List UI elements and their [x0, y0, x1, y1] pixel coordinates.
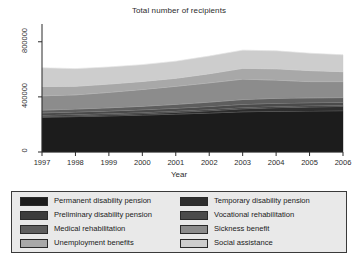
- legend-entry: Permanent disability pension: [20, 194, 180, 208]
- x-tick-label-6: 2003: [228, 158, 258, 167]
- legend-swatch: [180, 239, 208, 248]
- area-band-0: [42, 111, 343, 152]
- x-tick-label-1: 1998: [60, 158, 90, 167]
- legend-label: Vocational rehabilitation: [214, 211, 294, 219]
- legend-label: Social assistance: [214, 239, 273, 247]
- legend-swatch: [20, 211, 48, 220]
- x-tick-label-5: 2002: [194, 158, 224, 167]
- legend-label: Preliminary disability pension: [54, 211, 152, 219]
- x-tick-label-7: 2004: [261, 158, 291, 167]
- legend-label: Permanent disability pension: [54, 197, 151, 205]
- legend-swatch: [20, 225, 48, 234]
- legend-label: Temporary disability pension: [214, 197, 310, 205]
- legend-entry: Temporary disability pension: [180, 194, 340, 208]
- y-tick-label-2: 800000: [20, 18, 29, 62]
- x-tick-label-4: 2001: [161, 158, 191, 167]
- legend-grid: Permanent disability pensionTemporary di…: [12, 192, 346, 252]
- legend-entry: Preliminary disability pension: [20, 208, 180, 222]
- x-tick-label-3: 2000: [127, 158, 157, 167]
- x-tick-label-2: 1999: [94, 158, 124, 167]
- x-tick-label-9: 2006: [328, 158, 358, 167]
- legend-swatch: [20, 197, 48, 206]
- legend-swatch: [180, 197, 208, 206]
- legend-label: Sickness benefit: [214, 225, 269, 233]
- legend-label: Medical rehabilitation: [54, 225, 125, 233]
- legend-entry: Vocational rehabilitation: [180, 208, 340, 222]
- x-tick-label-8: 2005: [295, 158, 325, 167]
- legend-entry: Sickness benefit: [180, 222, 340, 236]
- x-tick-label-0: 1997: [27, 158, 57, 167]
- figure: Total number of recipients 0400000800000…: [0, 0, 358, 266]
- x-axis-label: Year: [0, 170, 358, 179]
- legend-swatch: [180, 211, 208, 220]
- chart-legend: Permanent disability pensionTemporary di…: [11, 191, 347, 253]
- y-tick-label-1: 400000: [20, 73, 29, 117]
- legend-label: Unemployment benefits: [54, 239, 134, 247]
- legend-entry: Social assistance: [180, 236, 340, 250]
- legend-swatch: [180, 225, 208, 234]
- legend-swatch: [20, 239, 48, 248]
- legend-entry: Medical rehabilitation: [20, 222, 180, 236]
- legend-entry: Unemployment benefits: [20, 236, 180, 250]
